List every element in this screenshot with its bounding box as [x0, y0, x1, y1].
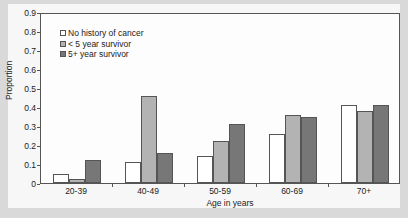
- x-tick-mark: [256, 184, 257, 187]
- bar: [125, 162, 141, 183]
- bar: [229, 124, 245, 183]
- x-tick-mark: [184, 184, 185, 187]
- y-tick-mark: [37, 13, 40, 14]
- y-tick-mark: [37, 127, 40, 128]
- x-tick-mark: [112, 184, 113, 187]
- y-tick-mark: [37, 165, 40, 166]
- x-tick-mark: [328, 184, 329, 187]
- y-tick-label: 0.7: [16, 46, 36, 56]
- y-tick-label: 0.3: [16, 122, 36, 132]
- legend-item-lt5-survivor: < 5 year survivor: [60, 39, 144, 50]
- x-axis-label: Age in years: [190, 198, 270, 208]
- bar: [85, 160, 101, 183]
- legend-swatch-icon: [60, 41, 66, 47]
- y-tick-mark: [37, 32, 40, 33]
- x-tick-label: 60-69: [262, 186, 322, 196]
- y-tick-mark: [37, 51, 40, 52]
- y-tick-label: 0.6: [16, 65, 36, 75]
- y-tick-mark: [37, 184, 40, 185]
- legend: No history of cancer < 5 year survivor 5…: [60, 28, 144, 60]
- y-tick-label: 0.2: [16, 141, 36, 151]
- legend-item-no-history: No history of cancer: [60, 28, 144, 39]
- y-tick-label: 0.5: [16, 84, 36, 94]
- bar: [197, 156, 213, 183]
- y-axis-label: Proportion: [4, 61, 14, 100]
- bar: [269, 134, 285, 183]
- bar: [357, 111, 373, 183]
- legend-swatch-icon: [60, 51, 66, 57]
- y-tick-label: 0.1: [16, 160, 36, 170]
- legend-item-5plus-survivor: 5+ year survivor: [60, 49, 144, 60]
- bar: [373, 105, 389, 183]
- y-tick-label: 0.4: [16, 103, 36, 113]
- y-tick-label: 0.9: [16, 8, 36, 18]
- x-tick-label: 70+: [334, 186, 394, 196]
- bar: [53, 174, 69, 184]
- y-tick-mark: [37, 89, 40, 90]
- bar: [285, 115, 301, 183]
- bar: [141, 96, 157, 183]
- bar: [157, 153, 173, 183]
- x-tick-label: 40-49: [118, 186, 178, 196]
- x-tick-label: 20-39: [46, 186, 106, 196]
- legend-swatch-icon: [60, 30, 66, 36]
- y-tick-mark: [37, 108, 40, 109]
- y-tick-label: 0.8: [16, 27, 36, 37]
- y-tick-mark: [37, 146, 40, 147]
- bar: [301, 117, 317, 184]
- bar: [341, 105, 357, 183]
- y-tick-mark: [37, 70, 40, 71]
- bar: [213, 141, 229, 183]
- y-tick-label: 0: [16, 179, 36, 189]
- x-tick-label: 50-59: [190, 186, 250, 196]
- bar: [69, 179, 85, 183]
